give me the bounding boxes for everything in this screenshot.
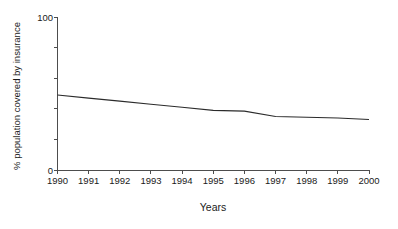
x-tick-label-1998: 1998 bbox=[296, 175, 317, 186]
y-axis-ticks bbox=[54, 17, 58, 170]
x-tick-label-1999: 1999 bbox=[327, 175, 348, 186]
x-tick-label-1992: 1992 bbox=[109, 175, 130, 186]
y-tick-label-100: 100 bbox=[37, 12, 53, 23]
x-tick-label-1996: 1996 bbox=[234, 175, 255, 186]
x-tick-label-1994: 1994 bbox=[172, 175, 193, 186]
x-axis-tick-labels: 1990199119921993199419951996199719981999… bbox=[47, 175, 380, 186]
x-tick-label-2000: 2000 bbox=[358, 175, 379, 186]
y-axis-title: % population covered by insurance bbox=[11, 22, 22, 170]
data-line-insurance-coverage bbox=[58, 95, 370, 119]
x-tick-label-1993: 1993 bbox=[140, 175, 161, 186]
x-tick-label-1995: 1995 bbox=[203, 175, 224, 186]
x-tick-label-1997: 1997 bbox=[265, 175, 286, 186]
x-axis-title: Years bbox=[200, 201, 226, 213]
x-tick-label-1991: 1991 bbox=[78, 175, 99, 186]
chart-canvas: 100 0 1990199119921993199419951996199719… bbox=[0, 0, 398, 229]
x-tick-label-1990: 1990 bbox=[47, 175, 68, 186]
line-chart: 100 0 1990199119921993199419951996199719… bbox=[0, 0, 398, 229]
